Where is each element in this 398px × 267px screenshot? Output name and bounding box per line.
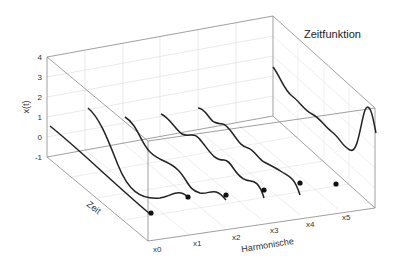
harmonic-axis-label: Harmonische [241, 236, 295, 254]
marker-x4 [297, 180, 302, 185]
h-tick-x3: x3 [270, 226, 279, 235]
z-tick-minus1: -1 [35, 153, 43, 162]
marker-x0 [148, 210, 153, 215]
z-tick-3: 3 [38, 73, 43, 82]
marker-x3 [261, 187, 266, 192]
floor-grid [72, 123, 349, 234]
marker-x2 [223, 192, 228, 197]
z-axis-label: x(t) [21, 101, 31, 114]
h-tick-x0: x0 [153, 245, 162, 254]
z-tick-1: 1 [38, 113, 43, 122]
series-curves [50, 67, 376, 214]
h-tick-x5: x5 [342, 213, 351, 222]
chart-title: Zeitfunktion [304, 28, 361, 40]
z-tick-4: 4 [38, 53, 43, 62]
marker-x1 [185, 194, 190, 199]
z-tick-2: 2 [38, 93, 43, 102]
h-tick-x4: x4 [306, 220, 315, 229]
z-tick-0: 0 [38, 133, 43, 142]
h-tick-x1: x1 [193, 239, 202, 248]
right-wall-grid [273, 36, 375, 188]
z-axis-ticks: 4 3 2 1 0 -1 [35, 53, 43, 162]
back-wall-grid [47, 23, 273, 150]
h-tick-x2: x2 [232, 233, 241, 242]
waterfall-chart: Zeitfunktion 4 3 2 1 0 -1 x(t) Zeit x0 x… [0, 0, 398, 267]
marker-x5 [333, 181, 338, 186]
